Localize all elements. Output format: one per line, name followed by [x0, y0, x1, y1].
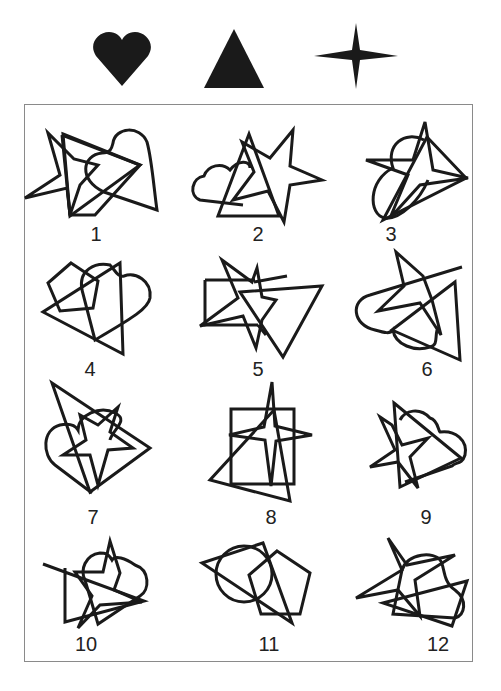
figure-label-12: 12	[418, 633, 458, 656]
five-point-star-shape	[356, 538, 455, 616]
